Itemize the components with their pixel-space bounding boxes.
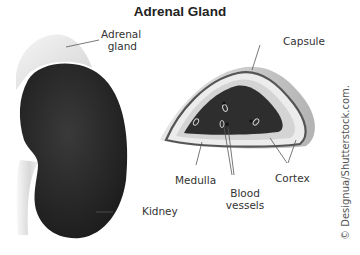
label-adrenal-gland: Adrenal gland	[101, 28, 137, 52]
diagram-title: Adrenal Gland	[0, 4, 360, 19]
label-medulla: Medulla	[175, 174, 216, 186]
label-blood-vessels-line2: vessels	[225, 199, 265, 211]
label-capsule: Capsule	[283, 35, 325, 47]
label-adrenal-gland-line1: Adrenal	[101, 28, 137, 40]
label-blood-vessels: Blood vessels	[225, 187, 265, 211]
label-kidney: Kidney	[142, 205, 178, 217]
label-blood-vessels-line1: Blood	[225, 187, 265, 199]
copyright-credit: © Designua/Shutterstock.com.	[340, 85, 351, 240]
label-cortex: Cortex	[275, 172, 310, 184]
label-adrenal-gland-line2: gland	[101, 40, 137, 52]
